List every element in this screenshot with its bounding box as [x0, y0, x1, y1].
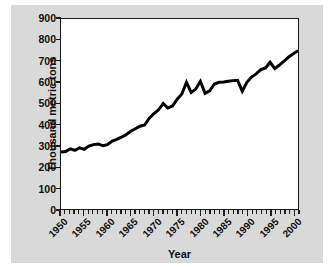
x-axis-minor-tick: [242, 210, 243, 214]
x-axis-tick-label: 1995: [254, 216, 280, 242]
x-axis-tick-label: 1955: [67, 216, 93, 242]
chart-figure: Thousand metric tons 0100200300400500600…: [11, 5, 323, 263]
x-axis-minor-tick: [214, 210, 215, 214]
x-axis-minor-tick: [78, 210, 79, 214]
y-axis-tick-label: 800: [22, 34, 56, 45]
plot-area: [60, 18, 299, 210]
x-axis-tick-label: 1960: [90, 216, 116, 242]
x-axis-minor-tick: [111, 210, 112, 214]
x-axis-tick-label: 1970: [137, 216, 163, 242]
x-axis-title: Year: [60, 248, 299, 260]
x-axis-minor-tick: [158, 210, 159, 214]
y-axis-tick-labels: 0100200300400500600700800900: [16, 18, 56, 210]
x-axis-tick-label: 1975: [161, 216, 187, 242]
x-axis-tick-label: 2000: [278, 216, 304, 242]
x-axis-minor-tick: [289, 210, 290, 214]
y-axis-tick-label: 700: [22, 55, 56, 66]
x-axis-minor-tick: [191, 210, 192, 214]
x-axis-minor-tick: [252, 210, 253, 214]
x-axis-minor-tick: [233, 210, 234, 214]
x-axis-minor-tick: [120, 210, 121, 214]
x-axis-minor-tick: [209, 210, 210, 214]
x-axis-minor-tick: [172, 210, 173, 214]
line-series-svg: [61, 19, 298, 209]
x-axis-minor-tick: [195, 210, 196, 214]
x-axis-minor-tick: [162, 210, 163, 214]
y-axis-tick-label: 500: [22, 98, 56, 109]
y-axis-tick-label: 600: [22, 77, 56, 88]
x-axis-minor-tick: [134, 210, 135, 214]
x-axis-minor-tick: [116, 210, 117, 214]
x-axis-minor-tick: [181, 210, 182, 214]
x-axis-minor-tick: [69, 210, 70, 214]
x-axis-minor-tick: [228, 210, 229, 214]
x-axis-tick-label: 1950: [44, 216, 70, 242]
y-axis-tick-label: 100: [22, 183, 56, 194]
x-axis-minor-tick: [186, 210, 187, 214]
y-axis-tick-label: 300: [22, 141, 56, 152]
y-axis-tick-label: 400: [22, 119, 56, 130]
x-axis-minor-tick: [284, 210, 285, 214]
x-axis-minor-tick: [298, 210, 299, 214]
x-axis-tick-label: 1980: [184, 216, 210, 242]
x-axis-minor-tick: [125, 210, 126, 214]
x-axis-minor-tick: [97, 210, 98, 214]
x-axis-tick-label: 1990: [231, 216, 257, 242]
x-axis-minor-tick: [92, 210, 93, 214]
x-axis-minor-tick: [148, 210, 149, 214]
x-axis-minor-tick: [256, 210, 257, 214]
x-axis-minor-tick: [266, 210, 267, 214]
x-axis-minor-tick: [144, 210, 145, 214]
y-axis-tick-label: 0: [22, 205, 56, 216]
x-axis-minor-tick: [102, 210, 103, 214]
x-axis-minor-tick: [167, 210, 168, 214]
x-axis-minor-tick: [261, 210, 262, 214]
x-axis-minor-tick: [275, 210, 276, 214]
x-axis-tick-label: 1965: [114, 216, 140, 242]
x-axis-minor-tick: [139, 210, 140, 214]
x-axis-minor-tick: [205, 210, 206, 214]
x-axis-minor-tick: [219, 210, 220, 214]
x-axis-tick-labels: 1950195519601965197019751980198519901995…: [60, 216, 299, 248]
x-axis-minor-tick: [237, 210, 238, 214]
x-axis-tick-label: 1985: [208, 216, 234, 242]
x-axis-minor-tick: [88, 210, 89, 214]
series-line-production: [61, 51, 298, 152]
y-axis-tick-label: 200: [22, 162, 56, 173]
x-axis-minor-tick: [73, 210, 74, 214]
y-axis-tick-label: 900: [22, 13, 56, 24]
x-axis-minor-tick: [280, 210, 281, 214]
x-axis-minor-tick: [64, 210, 65, 214]
